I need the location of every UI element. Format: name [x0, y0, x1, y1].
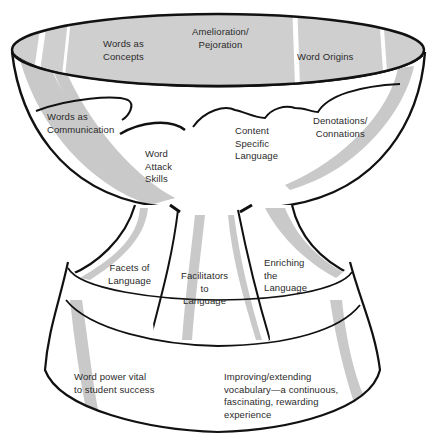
vocabulary-goblet-diagram: Words as Concepts Amelioration/ Pejorati… — [0, 0, 437, 444]
label-denotations-connations: Denotations/ Connations — [313, 115, 368, 140]
label-words-as-concepts: Words as Concepts — [103, 38, 144, 63]
goblet-illustration — [0, 0, 437, 444]
label-words-as-communication: Words as Communication — [47, 111, 114, 136]
label-word-origins: Word Origins — [297, 51, 353, 64]
label-enriching-the-language: Enriching the Language — [264, 257, 307, 295]
label-facets-of-language: Facets of Language — [108, 262, 151, 287]
label-facilitators-to-language: Facilitators to Language — [181, 270, 228, 308]
label-amelioration-pejoration: Amelioration/ Pejoration — [192, 26, 249, 51]
label-content-specific-language: Content Specific Language — [235, 125, 278, 163]
label-improving-extending: Improving/extending vocabulary—a continu… — [224, 371, 338, 421]
label-word-attack-skills: Word Attack Skills — [145, 148, 172, 186]
label-word-power: Word power vital to student success — [74, 371, 154, 396]
